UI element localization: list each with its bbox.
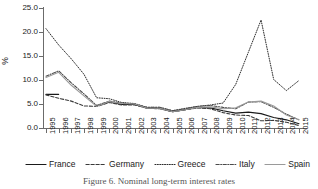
- line-solid-icon: [26, 161, 46, 168]
- figure-nominal-interest-rates: % 0.05.010.015.020.025.0 199519961997199…: [0, 0, 318, 189]
- x-tick-mark: [135, 129, 136, 133]
- legend-item-france[interactable]: France: [26, 160, 75, 169]
- x-tick-mark: [122, 129, 123, 133]
- x-tick-mark: [84, 129, 85, 133]
- line-dashdot-icon: [216, 161, 236, 168]
- y-tick-label: 5.0: [8, 100, 38, 108]
- line-dotted-icon: [155, 161, 175, 168]
- figure-caption: Figure 6. Nominal long-term interest rat…: [30, 176, 288, 186]
- y-tick-label: 20.0: [8, 28, 38, 36]
- legend-label: Germany: [109, 160, 144, 169]
- x-tick-mark: [236, 129, 237, 133]
- legend-label: Spain: [288, 160, 310, 169]
- x-tick-mark: [160, 129, 161, 133]
- series-line-greece: [46, 20, 299, 111]
- y-tick-label: 10.0: [8, 76, 38, 84]
- y-tick-label: 25.0: [8, 4, 38, 12]
- chart-legend: FranceGermanyGreeceItalySpain: [26, 158, 310, 170]
- y-axis-tick-labels: 0.05.010.015.020.025.0: [0, 0, 38, 140]
- line-gray-icon: [265, 161, 285, 168]
- series-line-spain: [46, 72, 299, 120]
- x-tick-mark: [97, 129, 98, 133]
- series-lines: [44, 8, 307, 128]
- plot-area: [44, 8, 307, 128]
- x-tick-mark: [198, 129, 199, 133]
- y-tick-label: 0.0: [8, 124, 38, 132]
- x-tick-mark: [274, 129, 275, 133]
- legend-item-germany[interactable]: Germany: [86, 160, 144, 169]
- legend-item-spain[interactable]: Spain: [265, 160, 310, 169]
- legend-label: Greece: [178, 160, 206, 169]
- x-tick-mark: [59, 129, 60, 133]
- x-tick-mark: [261, 129, 262, 133]
- x-tick-mark: [299, 129, 300, 133]
- legend-item-italy[interactable]: Italy: [216, 160, 255, 169]
- y-tick-label: 15.0: [8, 52, 38, 60]
- legend-label: Italy: [239, 160, 255, 169]
- x-tick-mark: [173, 129, 174, 133]
- line-dashed-icon: [86, 161, 106, 168]
- x-tick-mark: [223, 129, 224, 133]
- x-tick-mark: [46, 129, 47, 133]
- legend-item-greece[interactable]: Greece: [155, 160, 206, 169]
- legend-label: France: [49, 160, 75, 169]
- x-tick-mark: [185, 129, 186, 133]
